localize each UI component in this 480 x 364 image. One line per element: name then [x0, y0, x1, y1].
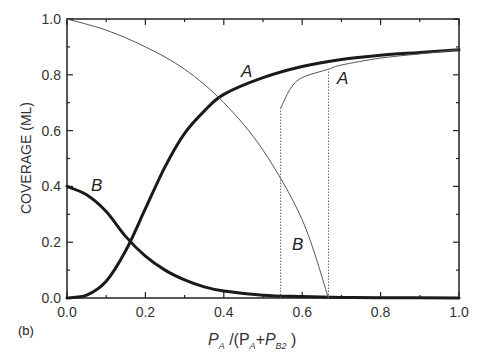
series-b-thick	[67, 186, 459, 298]
x-tick-label: 1.0	[449, 304, 469, 320]
x-tick-label: 0.4	[214, 304, 234, 320]
curves	[67, 19, 459, 298]
series-a-thin	[281, 50, 459, 109]
curve-label-a-thin: A	[336, 69, 348, 88]
x-title-sub1: A	[218, 341, 225, 351]
x-tick-label: 0.0	[57, 304, 77, 320]
series-b-thin	[67, 19, 328, 298]
x-axis-title: PA /(PA+PB2 )	[208, 331, 296, 351]
y-tick-label: 1.0	[42, 11, 62, 27]
x-title-end: )	[287, 331, 297, 348]
axis-ticks	[67, 19, 459, 298]
y-tick-label: 0.6	[42, 123, 62, 139]
curve-label-b-thick: B	[91, 176, 102, 195]
x-tick-label: 0.2	[136, 304, 156, 320]
curve-label-a-thick: A	[240, 62, 252, 81]
y-tick-label: 0.2	[42, 234, 62, 250]
y-tick-label: 0.4	[42, 178, 62, 194]
curve-label-b-thin: B	[292, 235, 303, 254]
x-tick-label: 0.8	[371, 304, 391, 320]
series-a-thick	[67, 50, 459, 298]
y-axis-title: COVERAGE (ML)	[18, 102, 34, 214]
x-title-sub2: A	[249, 341, 256, 351]
coverage-chart: 0.00.20.40.60.81.00.00.20.40.60.81.0 A A…	[0, 0, 480, 364]
x-title-mid: /(P	[225, 331, 250, 348]
x-tick-label: 0.6	[292, 304, 312, 320]
tick-labels: 0.00.20.40.60.81.00.00.20.40.60.81.0	[42, 11, 469, 320]
panel-label: (b)	[18, 323, 34, 338]
x-title-plus: +P	[256, 331, 276, 348]
y-tick-label: 0.8	[42, 67, 62, 83]
x-title-p1: P	[208, 331, 219, 348]
x-title-sub3: B2	[276, 341, 287, 351]
y-tick-label: 0.0	[42, 290, 62, 306]
plot-frame	[67, 19, 459, 298]
